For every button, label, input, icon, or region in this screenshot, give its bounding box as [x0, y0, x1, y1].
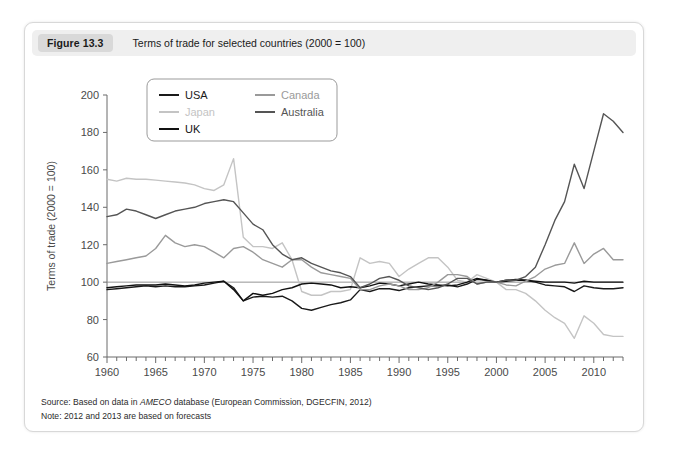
series-line-japan: [107, 159, 623, 339]
figure-notes: Source: Based on data in AMECO database …: [41, 395, 633, 423]
chart-legend: USAJapanUKCanadaAustralia: [147, 79, 337, 141]
legend-label-australia: Australia: [281, 106, 325, 118]
source-database-name: AMECO: [140, 397, 172, 407]
source-suffix: database (European Commission, DGECFIN, …: [171, 397, 371, 407]
source-prefix: Source: Based on data in: [41, 397, 140, 407]
svg-text:200: 200: [81, 89, 99, 101]
svg-text:160: 160: [81, 164, 99, 176]
svg-text:1975: 1975: [241, 366, 265, 378]
legend-label-canada: Canada: [281, 89, 320, 101]
series-line-usa: [107, 279, 623, 310]
svg-text:2000: 2000: [484, 366, 508, 378]
source-note: Source: Based on data in AMECO database …: [41, 395, 633, 409]
svg-text:1990: 1990: [387, 366, 411, 378]
svg-text:2010: 2010: [582, 366, 606, 378]
svg-text:100: 100: [81, 276, 99, 288]
svg-text:1980: 1980: [289, 366, 313, 378]
svg-text:1995: 1995: [436, 366, 460, 378]
y-axis-title: Terms of trade (2000 = 100): [45, 161, 57, 291]
chart-plot-area: 6080100120140160180200196019651970197519…: [35, 61, 635, 401]
legend-label-uk: UK: [185, 123, 201, 135]
terms-of-trade-line-chart: 6080100120140160180200196019651970197519…: [35, 61, 635, 401]
svg-text:1965: 1965: [143, 366, 167, 378]
legend-label-usa: USA: [185, 89, 208, 101]
svg-text:120: 120: [81, 239, 99, 251]
svg-text:1985: 1985: [338, 366, 362, 378]
svg-text:Terms of trade (2000 = 100): Terms of trade (2000 = 100): [45, 161, 57, 291]
svg-text:60: 60: [87, 351, 99, 363]
forecast-note: Note: 2012 and 2013 are based on forecas…: [41, 409, 633, 423]
figure-number-badge: Figure 13.3: [38, 34, 113, 52]
svg-text:1970: 1970: [192, 366, 216, 378]
svg-text:80: 80: [87, 314, 99, 326]
svg-text:1960: 1960: [95, 366, 119, 378]
figure-title: Terms of trade for selected countries (2…: [133, 37, 366, 49]
figure-header: Figure 13.3 Terms of trade for selected …: [32, 30, 636, 56]
chart-series-group: [107, 114, 623, 339]
figure-card: Figure 13.3 Terms of trade for selected …: [24, 22, 644, 432]
legend-label-japan: Japan: [185, 106, 215, 118]
svg-text:2005: 2005: [533, 366, 557, 378]
svg-text:180: 180: [81, 126, 99, 138]
svg-text:140: 140: [81, 201, 99, 213]
